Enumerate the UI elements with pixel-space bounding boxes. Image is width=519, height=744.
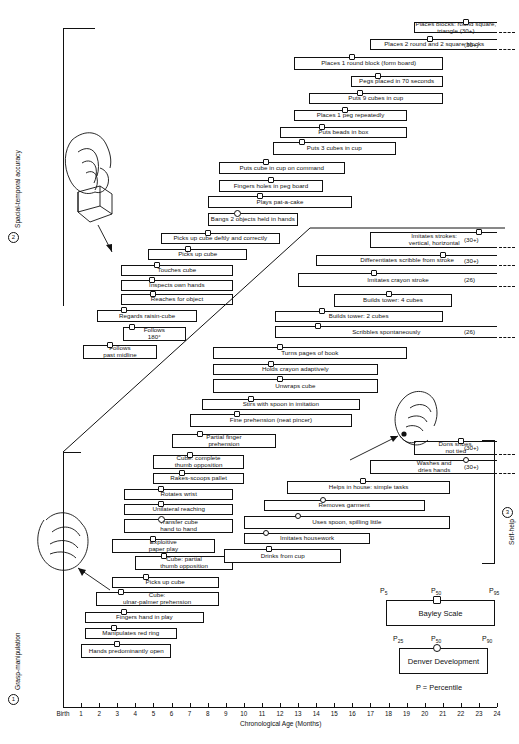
percentile-square-marker: [205, 230, 211, 236]
percentile-circle-marker: [234, 210, 241, 217]
self-help-spine: [494, 440, 495, 564]
milestone-bar: Holds crayon adaptively: [213, 364, 378, 375]
milestone-bar: Reaches for object: [121, 294, 233, 305]
axis-tick: [497, 703, 498, 707]
axis-tick: [208, 703, 209, 707]
open-end-dash: [499, 247, 515, 248]
axis-tick: [352, 703, 353, 707]
percentile-square-marker: [342, 107, 348, 113]
milestone-bar: Manipulates red ring: [85, 628, 177, 639]
percentile-square-marker: [319, 124, 325, 130]
bar-annotation: (30+): [464, 463, 479, 470]
milestone-bar: Puts 9 cubes in cup: [309, 93, 443, 104]
x-axis: [63, 707, 497, 708]
legend-percentile-label: P50: [431, 587, 441, 596]
open-end-dash: [499, 337, 515, 338]
milestone-bar: Dons shoes, not tied: [414, 441, 497, 455]
section-label-spacial-temporal: Spacial-temporal accuracy: [14, 150, 21, 228]
percentile-square-marker: [257, 193, 263, 199]
percentile-square-marker: [248, 396, 254, 402]
axis-tick: [389, 703, 390, 707]
axis-tick: [226, 703, 227, 707]
milestone-bar: Removes garment: [264, 500, 425, 511]
milestone-bar: Rotates wrist: [124, 489, 233, 500]
milestone-bar: Builds tower: 2 cubes: [275, 311, 443, 322]
open-end-dash: [499, 265, 515, 266]
milestone-bar: Unwraps cube: [213, 379, 378, 393]
milestone-bar: Hands predominantly open: [81, 644, 171, 658]
percentile-square-marker: [121, 307, 127, 313]
axis-tick: [425, 703, 426, 707]
milestone-bar: Turns pages of book: [213, 347, 406, 359]
milestone-bar: Picks up cube deftly and correctly: [161, 233, 280, 244]
percentile-square-marker: [268, 177, 274, 183]
axis-tick: [370, 703, 371, 707]
percentile-square-marker: [268, 361, 274, 367]
percentile-square-marker: [149, 277, 155, 283]
spacial-temporal-spine: [63, 28, 64, 306]
section-label-grasp-manipulation: Grasp-manipulation: [14, 632, 21, 690]
spacial-temporal-spine-top: [63, 28, 95, 29]
open-end-dash: [499, 32, 515, 33]
axis-tick: [190, 703, 191, 707]
section-number-1: 1: [8, 694, 19, 705]
percentile-square-marker: [161, 553, 167, 559]
legend-percentile-label: P90: [482, 635, 492, 644]
milestone-bar: Puts 3 cubes in cup: [273, 142, 396, 155]
percentile-square-marker: [187, 452, 193, 458]
percentile-circle-marker: [158, 516, 165, 523]
milestone-bar: Bangs 2 objects held in hands: [208, 213, 298, 226]
percentile-square-marker: [319, 308, 325, 314]
percentile-square-marker: [315, 323, 321, 329]
milestone-bar: Cube: partial thumb opposition: [135, 556, 233, 570]
milestone-bar: Stirs with spoon in imitation: [202, 399, 359, 410]
section-label-self-help: Self-help: [508, 519, 515, 545]
axis-tick: [99, 703, 100, 707]
bar-annotation: (26): [464, 276, 475, 283]
axis-tick: [262, 703, 263, 707]
legend-box-bayley: Bayley Scale: [386, 600, 495, 626]
percentile-square-marker: [107, 342, 113, 348]
percentile-square-marker: [463, 19, 469, 25]
percentile-square-marker: [154, 262, 160, 268]
milestone-bar: Places blocks: round square, triangle (3…: [414, 22, 497, 33]
axis-tick: [153, 703, 154, 707]
percentile-square-marker: [158, 501, 164, 507]
percentile-square-marker: [143, 574, 149, 580]
axis-tick: [172, 703, 173, 707]
percentile-square-marker: [111, 625, 117, 631]
milestone-bar: Rakes-scoops pallet: [153, 473, 243, 484]
percentile-square-marker: [129, 324, 135, 330]
open-end-dash: [499, 286, 515, 287]
percentile-square-marker: [121, 609, 127, 615]
milestone-bar: Plays pat-a-cake: [208, 196, 353, 208]
percentile-square-marker: [263, 159, 269, 165]
milestone-bar: Picks up cube: [148, 249, 247, 260]
percentile-square-marker: [118, 589, 124, 595]
axis-tick-label: 24: [483, 710, 511, 717]
percentile-square-marker: [158, 486, 164, 492]
percentile-square-marker: [277, 376, 283, 382]
x-axis-title: Chronological Age (Months): [240, 720, 321, 727]
percentile-square-marker: [440, 252, 446, 258]
bar-annotation: (26): [464, 328, 475, 335]
axis-tick: [81, 703, 82, 707]
axis-tick: [244, 703, 245, 707]
milestone-bar: Pegs placed in 70 seconds: [351, 76, 443, 87]
axis-tick: [407, 703, 408, 707]
percentile-square-marker: [114, 641, 120, 647]
percentile-square-marker: [277, 344, 283, 350]
milestone-bar: Builds tower: 4 cubes: [334, 294, 452, 307]
percentile-square-marker: [150, 291, 156, 297]
axis-tick: [479, 703, 480, 707]
legend-circle-marker: [433, 644, 441, 652]
open-end-dash: [499, 473, 515, 474]
milestone-bar: Partial finger prehension: [172, 434, 277, 448]
percentile-square-marker: [360, 478, 366, 484]
axis-tick: [443, 703, 444, 707]
milestone-bar: Puts cube in cup on command: [219, 162, 346, 174]
grasp-spine: [63, 452, 64, 707]
axis-tick: [298, 703, 299, 707]
milestone-bar: Places 1 round block (form board): [294, 57, 442, 70]
legend-square-marker: [433, 596, 441, 604]
